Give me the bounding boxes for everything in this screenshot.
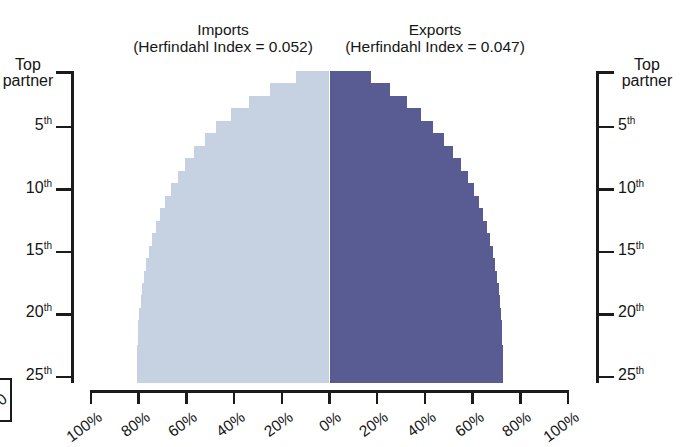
x-axis-tick-left-60 bbox=[185, 390, 188, 404]
bar-row bbox=[91, 108, 568, 120]
imports-bar bbox=[137, 358, 330, 370]
imports-bar bbox=[205, 133, 330, 145]
exports-subtitle: (Herfindahl Index = 0.047) bbox=[330, 39, 540, 56]
right-axis-tick-25 bbox=[599, 376, 614, 379]
exports-bar bbox=[330, 246, 494, 258]
exports-title: Exports bbox=[330, 22, 540, 39]
bar-row bbox=[91, 208, 568, 220]
right-axis-label-20: 20th bbox=[618, 303, 644, 321]
exports-bar bbox=[330, 121, 434, 133]
bar-row bbox=[91, 308, 568, 320]
bar-row bbox=[91, 320, 568, 332]
bar-row bbox=[91, 233, 568, 245]
exports-bar bbox=[330, 308, 502, 320]
exports-bar bbox=[330, 146, 453, 158]
imports-panel-heading: Imports (Herfindahl Index = 0.052) bbox=[118, 22, 328, 55]
bar-row bbox=[91, 370, 568, 382]
right-axis-top-label-line2: partner bbox=[622, 72, 673, 89]
exports-bar bbox=[330, 183, 474, 195]
imports-bar bbox=[138, 320, 329, 332]
imports-subtitle: (Herfindahl Index = 0.052) bbox=[118, 39, 328, 56]
bar-row bbox=[91, 83, 568, 95]
imports-bar bbox=[194, 146, 329, 158]
right-axis-tick-20 bbox=[599, 313, 614, 316]
x-axis-tick-left-100 bbox=[90, 390, 93, 404]
exports-bar bbox=[330, 221, 487, 233]
exports-bar bbox=[330, 83, 391, 95]
right-axis-label-15: 15th bbox=[618, 241, 644, 259]
exports-bar bbox=[330, 196, 479, 208]
exports-bar bbox=[330, 208, 484, 220]
right-axis-tick-5 bbox=[599, 126, 614, 129]
bar-row bbox=[91, 171, 568, 183]
left-axis-label-5: 5th bbox=[0, 116, 52, 134]
exports-bar bbox=[330, 158, 461, 170]
bar-row bbox=[91, 96, 568, 108]
right-axis-label-5: 5th bbox=[618, 116, 635, 134]
imports-bar bbox=[146, 258, 329, 270]
imports-bar bbox=[137, 370, 330, 382]
exports-bar bbox=[330, 283, 500, 295]
imports-bar bbox=[171, 183, 329, 195]
exports-bar bbox=[330, 358, 503, 370]
exports-bar bbox=[330, 258, 496, 270]
imports-bar bbox=[296, 71, 329, 83]
imports-bar bbox=[160, 208, 329, 220]
left-axis-top-label-line1: Top bbox=[15, 56, 41, 73]
imports-bar bbox=[249, 96, 330, 108]
x-axis-tick-left-40 bbox=[233, 390, 236, 404]
bar-row bbox=[91, 183, 568, 195]
exports-bar bbox=[330, 295, 501, 307]
imports-bar bbox=[216, 121, 329, 133]
exports-bar bbox=[330, 171, 468, 183]
right-axis-tick-10 bbox=[599, 188, 614, 191]
imports-bar bbox=[141, 295, 330, 307]
x-axis-tick-right-40 bbox=[424, 390, 427, 404]
bar-row bbox=[91, 121, 568, 133]
bar-row bbox=[91, 133, 568, 145]
right-axis-label-25: 25th bbox=[618, 366, 644, 384]
x-axis-tick-right-80 bbox=[519, 390, 522, 404]
imports-bar bbox=[142, 283, 329, 295]
bar-row bbox=[91, 258, 568, 270]
bar-row bbox=[91, 158, 568, 170]
imports-bar bbox=[178, 171, 330, 183]
bar-row bbox=[91, 196, 568, 208]
imports-bar bbox=[156, 221, 329, 233]
left-axis-tick-20 bbox=[56, 313, 71, 316]
left-axis-label-15: 15th bbox=[0, 241, 52, 259]
exports-bar bbox=[330, 333, 503, 345]
bar-row bbox=[91, 358, 568, 370]
x-axis-tick-right-100-label: 100% bbox=[522, 408, 583, 447]
x-axis-tick-right-20 bbox=[376, 390, 379, 404]
left-axis-tick-5 bbox=[56, 126, 71, 129]
bar-row bbox=[91, 345, 568, 357]
bar-row bbox=[91, 271, 568, 283]
x-axis-tick-right-100 bbox=[567, 390, 570, 404]
right-axis-top-label-line1: Top bbox=[634, 56, 660, 73]
bar-row bbox=[91, 221, 568, 233]
exports-bar bbox=[330, 96, 407, 108]
right-axis-line bbox=[596, 71, 599, 383]
imports-bar bbox=[149, 246, 329, 258]
bar-row bbox=[91, 333, 568, 345]
left-axis-tick-10 bbox=[56, 188, 71, 191]
left-axis-tick-25 bbox=[56, 376, 71, 379]
x-axis-tick-left-80 bbox=[137, 390, 140, 404]
imports-bar bbox=[144, 271, 330, 283]
left-axis-tick-top-partner bbox=[56, 71, 71, 74]
bar-row bbox=[91, 71, 568, 83]
right-axis-tick-15 bbox=[599, 251, 614, 254]
imports-bar bbox=[138, 333, 330, 345]
exports-bar bbox=[330, 133, 444, 145]
imports-bar bbox=[139, 308, 329, 320]
cut-off-caption-top bbox=[0, 0, 680, 3]
exports-bar bbox=[330, 71, 371, 83]
right-axis-tick-top-partner bbox=[599, 71, 614, 74]
plot-area bbox=[91, 71, 568, 383]
imports-bar bbox=[165, 196, 329, 208]
imports-title: Imports bbox=[118, 22, 328, 39]
left-axis-label-25: 25th bbox=[0, 366, 52, 384]
left-axis-tick-15 bbox=[56, 251, 71, 254]
exports-bar bbox=[330, 108, 422, 120]
